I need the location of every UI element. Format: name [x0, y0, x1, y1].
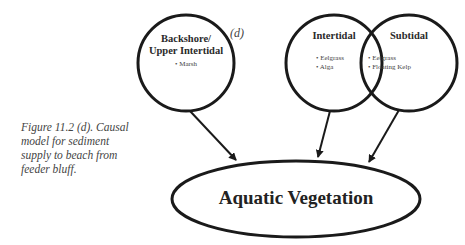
backshore-node: Backshore/ Upper Intertidal • Marsh — [136, 33, 236, 69]
subtidal-node: Subtidal • Eelgrass • Floating Kelp — [365, 30, 453, 72]
subtidal-title: Subtidal — [365, 30, 453, 42]
arrow-backshore-to-vegetation — [190, 111, 236, 160]
subtidal-item: • Floating Kelp — [368, 63, 453, 72]
arrow-subtidal-to-vegetation — [369, 110, 399, 162]
backshore-item: • Marsh — [136, 60, 236, 69]
backshore-title-line2: Upper Intertidal — [136, 45, 236, 57]
subtidal-item: • Eelgrass — [368, 54, 453, 63]
backshore-title-line1: Backshore/ — [136, 33, 236, 45]
figure-caption: Figure 11.2 (d). Causal model for sedime… — [21, 120, 141, 176]
arrow-intertidal-to-vegetation — [318, 111, 330, 157]
aquatic-vegetation-label: Aquatic Vegetation — [172, 187, 420, 209]
